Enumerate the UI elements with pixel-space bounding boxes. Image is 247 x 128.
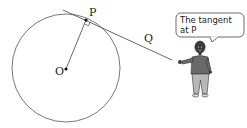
- point-o-dot: [64, 67, 67, 70]
- label-o: O: [55, 65, 64, 78]
- tangent-diagram: O P Q The tangent at P: [0, 0, 247, 128]
- label-p: P: [89, 6, 97, 19]
- bubble-line-1: The tangent: [179, 15, 232, 25]
- person-figure: [178, 41, 212, 97]
- point-p-dot: [84, 18, 87, 21]
- bubble-line-2: at P: [180, 25, 196, 35]
- radius-op: [66, 20, 86, 69]
- label-q: Q: [144, 32, 153, 45]
- speech-bubble: The tangent at P: [176, 13, 244, 42]
